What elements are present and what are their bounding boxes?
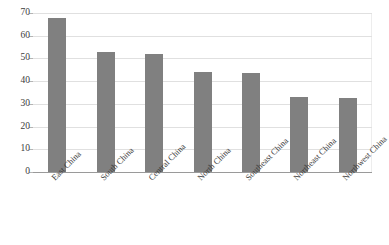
- x-axis-tick-label: East China: [50, 149, 83, 182]
- x-axis-tick-label: Southeast China: [244, 136, 290, 182]
- x-axis-tick-label: North China: [196, 146, 233, 183]
- x-axis-tick-label: Northeast China: [292, 136, 338, 182]
- x-axis-tick-label: Northwest China: [341, 135, 389, 183]
- x-axis-tick-label: South China: [99, 146, 136, 183]
- x-axis-tick-label: Central China: [147, 142, 187, 182]
